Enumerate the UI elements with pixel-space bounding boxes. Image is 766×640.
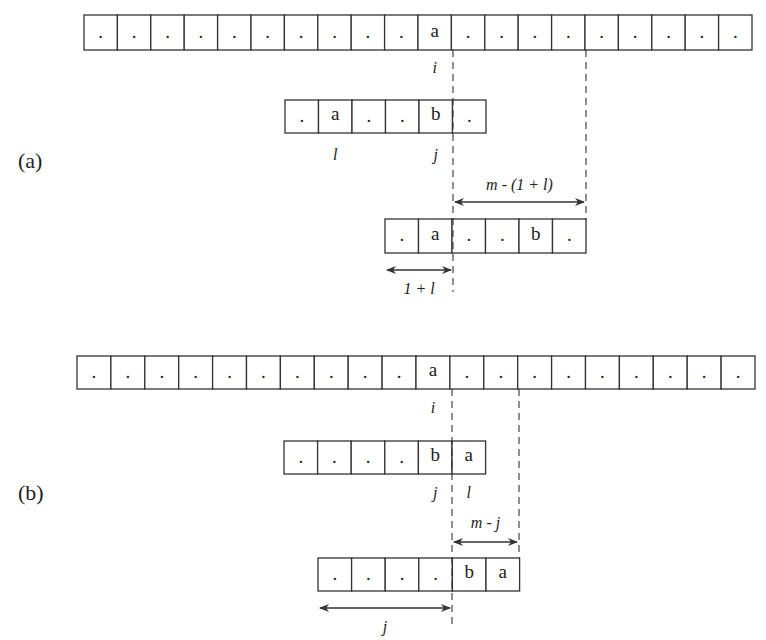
offset-arrow-label: 1 + l bbox=[403, 280, 435, 297]
cell-char: . bbox=[132, 21, 137, 42]
cell-char: a bbox=[429, 359, 438, 380]
text-string-row: ..........a......... bbox=[84, 15, 752, 50]
cell-char: . bbox=[165, 21, 170, 42]
diagram-canvas: (a)..........a.........i.a..b.lj.a..b.m … bbox=[0, 0, 766, 640]
cell-char: . bbox=[566, 361, 571, 382]
cell-char: . bbox=[464, 361, 469, 382]
cell-char: . bbox=[92, 361, 97, 382]
cell-char: . bbox=[433, 563, 438, 584]
cell-char: . bbox=[400, 105, 405, 126]
cell-char: . bbox=[666, 21, 671, 42]
part-label: (b) bbox=[18, 480, 44, 505]
cell-char: . bbox=[668, 361, 673, 382]
part-a: (a)..........a.........i.a..b.lj.a..b.m … bbox=[18, 15, 752, 297]
cell-char: . bbox=[295, 361, 300, 382]
cell-char: a bbox=[465, 444, 474, 465]
part-b: (b)..........a.........i....bajl....bam … bbox=[18, 356, 755, 636]
cell-char: . bbox=[399, 446, 404, 467]
pattern-index-label: l bbox=[333, 146, 338, 163]
cell-char: a bbox=[499, 561, 508, 582]
shifted-pattern-row: ....ba bbox=[318, 558, 520, 591]
cell-char: . bbox=[466, 224, 471, 245]
cell-char: . bbox=[232, 21, 237, 42]
text-string-row: ..........a......... bbox=[77, 356, 755, 389]
cell-char: . bbox=[193, 361, 198, 382]
cell-char: . bbox=[329, 361, 334, 382]
pattern-row: ....ba bbox=[284, 441, 486, 474]
pattern-row: .a..b. bbox=[285, 100, 486, 133]
cell-char: . bbox=[634, 361, 639, 382]
cell-char: . bbox=[736, 361, 741, 382]
cell-char: . bbox=[366, 563, 371, 584]
cell-char: . bbox=[332, 21, 337, 42]
cell-char: . bbox=[566, 21, 571, 42]
cell-char: . bbox=[366, 21, 371, 42]
cell-char: b bbox=[531, 223, 541, 244]
cell-char: . bbox=[500, 224, 505, 245]
shifted-pattern-row: .a..b. bbox=[385, 219, 586, 253]
cell-char: . bbox=[298, 446, 303, 467]
index-label-i: i bbox=[432, 59, 436, 76]
cell-char: . bbox=[733, 21, 738, 42]
cell-char: b bbox=[431, 103, 441, 124]
cell-char: . bbox=[466, 21, 471, 42]
cell-char: b bbox=[464, 561, 474, 582]
index-label-i: i bbox=[431, 399, 435, 416]
cell-char: a bbox=[431, 223, 440, 244]
pattern-index-label: j bbox=[432, 146, 439, 164]
cell-char: . bbox=[633, 21, 638, 42]
cell-char: . bbox=[363, 361, 368, 382]
cell-char: . bbox=[366, 105, 371, 126]
cell-char: . bbox=[532, 361, 537, 382]
cell-char: . bbox=[265, 21, 270, 42]
cell-char: . bbox=[397, 361, 402, 382]
cell-char: . bbox=[332, 563, 337, 584]
cell-char: . bbox=[227, 361, 232, 382]
cell-char: . bbox=[399, 224, 404, 245]
pattern-index-label: j bbox=[431, 484, 438, 502]
shift-arrow-label: m - j bbox=[471, 514, 501, 532]
cell-char: . bbox=[700, 21, 705, 42]
cell-char: . bbox=[499, 21, 504, 42]
offset-arrow-label: j bbox=[381, 618, 388, 636]
cell-char: . bbox=[702, 361, 707, 382]
cell-char: . bbox=[125, 361, 130, 382]
cell-char: . bbox=[159, 361, 164, 382]
cell-char: . bbox=[533, 21, 538, 42]
cell-char: . bbox=[261, 361, 266, 382]
cell-char: a bbox=[331, 103, 340, 124]
cell-char: . bbox=[98, 21, 103, 42]
part-label: (a) bbox=[18, 148, 42, 173]
shift-arrow-label: m - (1 + l) bbox=[486, 176, 553, 194]
cell-char: . bbox=[567, 224, 572, 245]
pattern-index-label: l bbox=[467, 484, 472, 501]
cell-char: . bbox=[600, 361, 605, 382]
cell-char: . bbox=[599, 21, 604, 42]
cell-char: . bbox=[400, 563, 405, 584]
cell-char: . bbox=[299, 105, 304, 126]
cell-char: b bbox=[430, 444, 440, 465]
cell-char: . bbox=[467, 105, 472, 126]
cell-char: . bbox=[366, 446, 371, 467]
cell-char: . bbox=[498, 361, 503, 382]
cell-char: . bbox=[399, 21, 404, 42]
cell-char: . bbox=[199, 21, 204, 42]
cell-char: a bbox=[430, 20, 439, 41]
cell-char: . bbox=[299, 21, 304, 42]
cell-char: . bbox=[332, 446, 337, 467]
